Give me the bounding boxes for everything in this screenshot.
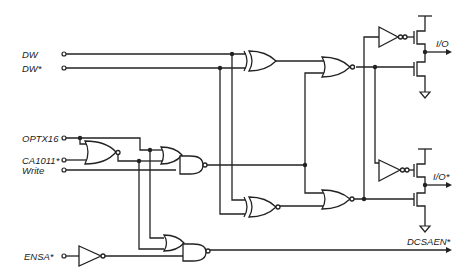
label-write: Write xyxy=(22,165,44,176)
inverter-bottom xyxy=(379,160,409,181)
arrow-io-n xyxy=(446,182,452,188)
pin-ca1011-n xyxy=(62,158,66,162)
label-io: I/O xyxy=(436,38,449,49)
label-dw: DW xyxy=(22,49,39,60)
label-dcsaen-n: DCSAEN* xyxy=(407,236,451,247)
inverter-top xyxy=(379,27,407,47)
pin-ensa-n xyxy=(62,254,66,258)
xnor-gate-bottom xyxy=(244,197,280,217)
driver-bottom xyxy=(409,149,432,232)
pin-write xyxy=(62,168,66,172)
nor-gate-bottom xyxy=(322,190,354,209)
nor-gate-top xyxy=(322,57,355,77)
driver-top xyxy=(407,16,432,98)
or-nand-gate-dcsaen xyxy=(164,235,210,261)
label-optx16: OPTX16 xyxy=(22,133,59,144)
inverter-ensa xyxy=(79,246,105,266)
label-ensa-n: ENSA* xyxy=(24,251,54,262)
pin-optx16 xyxy=(62,136,66,140)
xor-gate-top xyxy=(244,51,276,71)
arrow-dcsaen xyxy=(446,247,452,253)
arrow-io xyxy=(446,49,452,55)
label-io-n: I/O* xyxy=(433,171,450,182)
circuit-diagram: DW DW* OPTX16 CA1011* Write ENSA* I/O I/… xyxy=(0,0,472,280)
pin-dw xyxy=(62,52,66,56)
nor-gate-opt xyxy=(85,141,120,164)
pin-dw-n xyxy=(62,66,66,70)
label-dw-n: DW* xyxy=(22,63,42,74)
input-pins xyxy=(62,52,66,258)
